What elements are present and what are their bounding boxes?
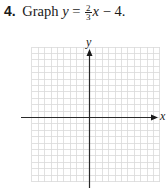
- grid-lines: [32, 47, 160, 181]
- y-axis-arrow-icon: [87, 49, 93, 56]
- x-axis-label: x: [160, 110, 165, 122]
- coordinate-grid[interactable]: [0, 0, 167, 194]
- y-axis: [87, 49, 93, 188]
- x-axis-arrow-icon: [151, 115, 158, 121]
- y-axis-label: y: [86, 36, 91, 48]
